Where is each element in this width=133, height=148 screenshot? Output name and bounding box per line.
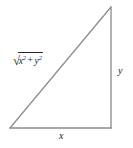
vertical-leg-label: y [118, 66, 122, 76]
radical-expression: √x2+y2 [13, 52, 43, 67]
hypotenuse-line [10, 7, 111, 128]
radicand: x2+y2 [18, 52, 43, 66]
radicand-exponent-y: 2 [39, 54, 42, 61]
hypotenuse-label: √x2+y2 [13, 52, 43, 67]
horizontal-leg-label: x [59, 131, 63, 141]
triangle-drawing [0, 0, 133, 148]
right-triangle-figure: √x2+y2 y x [0, 0, 133, 148]
